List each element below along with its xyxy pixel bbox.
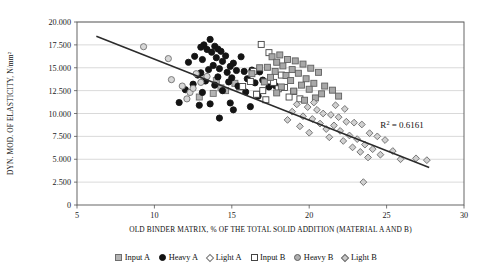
legend-item-label: Input A bbox=[125, 253, 150, 262]
data-point bbox=[336, 93, 342, 99]
data-point bbox=[226, 79, 232, 85]
scatter-chart: 02.5005.0007.50010.00012.50015.00017.500… bbox=[0, 0, 492, 268]
data-point bbox=[241, 68, 247, 74]
data-point bbox=[343, 118, 350, 125]
legend-item-light-a[interactable]: Light A bbox=[207, 253, 241, 262]
data-point bbox=[277, 52, 283, 58]
y-tick-label: 7.500 bbox=[53, 132, 71, 141]
y-tick-label: 2.500 bbox=[53, 178, 71, 187]
data-point bbox=[247, 78, 253, 84]
data-point bbox=[199, 56, 205, 62]
data-point bbox=[213, 55, 219, 61]
data-point bbox=[341, 106, 348, 113]
data-point bbox=[240, 84, 246, 90]
data-point bbox=[423, 157, 430, 164]
data-point bbox=[285, 57, 291, 63]
data-point bbox=[351, 119, 358, 126]
data-point bbox=[377, 151, 384, 158]
legend-item-heavy-a[interactable]: Heavy A bbox=[159, 253, 198, 262]
data-point bbox=[284, 117, 291, 124]
data-point bbox=[207, 36, 213, 42]
legend-item-label: Heavy A bbox=[169, 253, 199, 262]
data-point bbox=[315, 69, 321, 75]
series-light-b bbox=[284, 99, 430, 185]
data-point bbox=[274, 90, 280, 96]
data-point bbox=[238, 54, 244, 60]
data-point bbox=[278, 84, 284, 90]
data-point bbox=[326, 134, 333, 141]
data-point bbox=[215, 74, 221, 80]
data-point bbox=[140, 44, 146, 50]
square-grey-marker bbox=[115, 254, 122, 261]
data-point bbox=[335, 114, 342, 121]
data-point bbox=[209, 49, 215, 55]
data-point bbox=[207, 101, 213, 107]
data-point bbox=[319, 91, 325, 97]
diamond-grey-marker bbox=[341, 253, 349, 261]
data-point bbox=[233, 67, 239, 73]
data-point bbox=[165, 56, 171, 62]
data-point bbox=[216, 66, 222, 72]
data-point bbox=[196, 102, 202, 108]
square-open-marker bbox=[251, 254, 258, 261]
data-point bbox=[291, 88, 297, 94]
data-point bbox=[185, 59, 191, 65]
legend-item-label: Light B bbox=[351, 253, 377, 262]
data-point bbox=[168, 77, 174, 83]
data-point bbox=[227, 100, 233, 106]
y-tick-label: 15.000 bbox=[48, 64, 71, 73]
data-point bbox=[329, 87, 335, 93]
r-squared-annotation: R2 = 0.6161 bbox=[380, 119, 423, 130]
data-point bbox=[224, 69, 230, 75]
legend-item-input-a[interactable]: Input A bbox=[115, 253, 150, 262]
data-point bbox=[308, 65, 314, 71]
x-tick-label: 5 bbox=[75, 211, 79, 220]
data-point bbox=[288, 78, 294, 84]
data-point bbox=[327, 111, 334, 118]
data-point bbox=[199, 89, 205, 95]
data-point bbox=[314, 106, 321, 113]
legend-item-heavy-b[interactable]: Heavy B bbox=[294, 253, 333, 262]
y-tick-label: 17.500 bbox=[48, 41, 71, 50]
data-point bbox=[331, 122, 338, 129]
data-point bbox=[205, 66, 211, 72]
data-point bbox=[306, 129, 313, 136]
data-point bbox=[260, 88, 266, 94]
data-point bbox=[365, 154, 372, 161]
legend-item-input-b[interactable]: Input B bbox=[251, 253, 286, 262]
chart-legend: Input AHeavy ALight AInput BHeavy BLight… bbox=[0, 253, 492, 262]
data-point bbox=[216, 115, 222, 121]
data-point bbox=[219, 88, 225, 94]
data-point bbox=[306, 86, 312, 92]
data-point bbox=[349, 144, 356, 151]
data-point bbox=[280, 63, 286, 69]
data-point bbox=[297, 123, 304, 130]
data-point bbox=[332, 102, 339, 109]
data-point bbox=[190, 85, 196, 91]
data-point bbox=[198, 44, 204, 50]
trendline bbox=[96, 36, 429, 167]
legend-item-light-b[interactable]: Light B bbox=[342, 253, 376, 262]
data-point bbox=[210, 90, 216, 96]
x-tick-label: 20 bbox=[305, 211, 313, 220]
circle-grey-marker bbox=[294, 254, 301, 261]
data-point bbox=[192, 53, 198, 59]
data-point bbox=[289, 67, 295, 73]
data-point bbox=[272, 68, 278, 74]
x-tick-label: 15 bbox=[228, 211, 236, 220]
data-point bbox=[303, 76, 309, 82]
circle-black-marker bbox=[159, 254, 166, 261]
legend-item-label: Heavy B bbox=[304, 253, 334, 262]
data-point bbox=[382, 137, 389, 144]
data-point bbox=[298, 82, 304, 88]
data-point bbox=[322, 83, 328, 89]
x-tick-label: 25 bbox=[383, 211, 391, 220]
data-point bbox=[176, 99, 182, 105]
y-tick-label: 5.000 bbox=[53, 155, 71, 164]
data-point bbox=[302, 97, 308, 103]
data-point bbox=[198, 79, 204, 85]
data-point bbox=[292, 58, 298, 64]
plot-svg: 02.5005.0007.50010.00012.50015.00017.500… bbox=[0, 0, 492, 240]
y-tick-label: 10.000 bbox=[48, 110, 71, 119]
data-point bbox=[295, 70, 301, 76]
